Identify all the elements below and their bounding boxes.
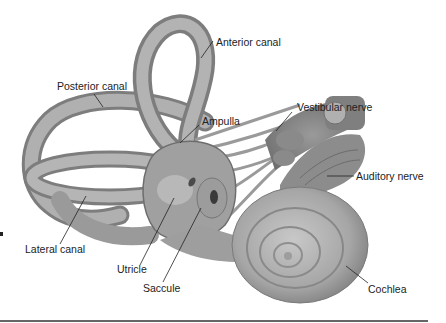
label-auditory-nerve: Auditory nerve: [356, 170, 424, 182]
anterior-canal: [142, 24, 205, 150]
label-posterior-canal: Posterior canal: [57, 80, 127, 92]
edge-mark: [0, 232, 3, 236]
vestibule: [143, 141, 236, 240]
label-ampulla: Ampulla: [202, 115, 240, 127]
label-anterior-canal: Anterior canal: [216, 36, 281, 48]
label-lateral-canal: Lateral canal: [25, 243, 85, 255]
label-saccule: Saccule: [143, 282, 180, 294]
label-cochlea: Cochlea: [368, 283, 407, 295]
bottom-divider: [0, 320, 428, 322]
label-vestibular-nerve: Vestibular nerve: [297, 101, 372, 113]
label-utricle: Utricle: [117, 263, 147, 275]
inner-ear-illustration: [0, 0, 446, 323]
